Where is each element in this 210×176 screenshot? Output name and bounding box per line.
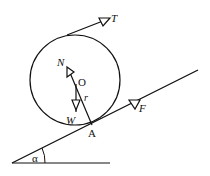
label-contact-point: A bbox=[88, 127, 96, 139]
label-tension: T bbox=[111, 12, 118, 24]
label-normal: N bbox=[56, 56, 65, 68]
weight-arrowhead bbox=[72, 100, 80, 110]
tension-arrowhead bbox=[99, 18, 110, 26]
label-radius: r bbox=[84, 92, 88, 103]
normal-arrowhead bbox=[67, 67, 74, 77]
label-weight: W bbox=[66, 114, 76, 126]
diagram-canvas: T N O r W A F α bbox=[0, 0, 210, 176]
incline-line bbox=[12, 70, 198, 163]
label-friction: F bbox=[138, 102, 146, 114]
cylinder bbox=[30, 35, 120, 125]
label-center: O bbox=[78, 76, 86, 88]
angle-arc bbox=[42, 148, 45, 163]
label-angle: α bbox=[32, 152, 38, 164]
